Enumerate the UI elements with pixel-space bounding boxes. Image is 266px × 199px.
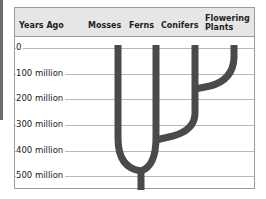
ferns-stem [141,45,156,171]
mosses-branch [118,45,141,171]
evolution-diagram: Years Ago Mosses Ferns Conifers Flowerin… [14,7,255,189]
row-label-0: 0 [16,42,23,52]
row-label-400m: 400 million [16,145,65,155]
row-label-100m: 100 million [16,68,65,78]
flowering-plants-branch [195,45,234,89]
row-label-300m: 300 million [16,119,65,129]
conifers-branch [156,45,195,140]
row-label-200m: 200 million [16,93,65,103]
row-label-500m: 500 million [16,170,65,180]
left-edge-bar [0,0,3,120]
